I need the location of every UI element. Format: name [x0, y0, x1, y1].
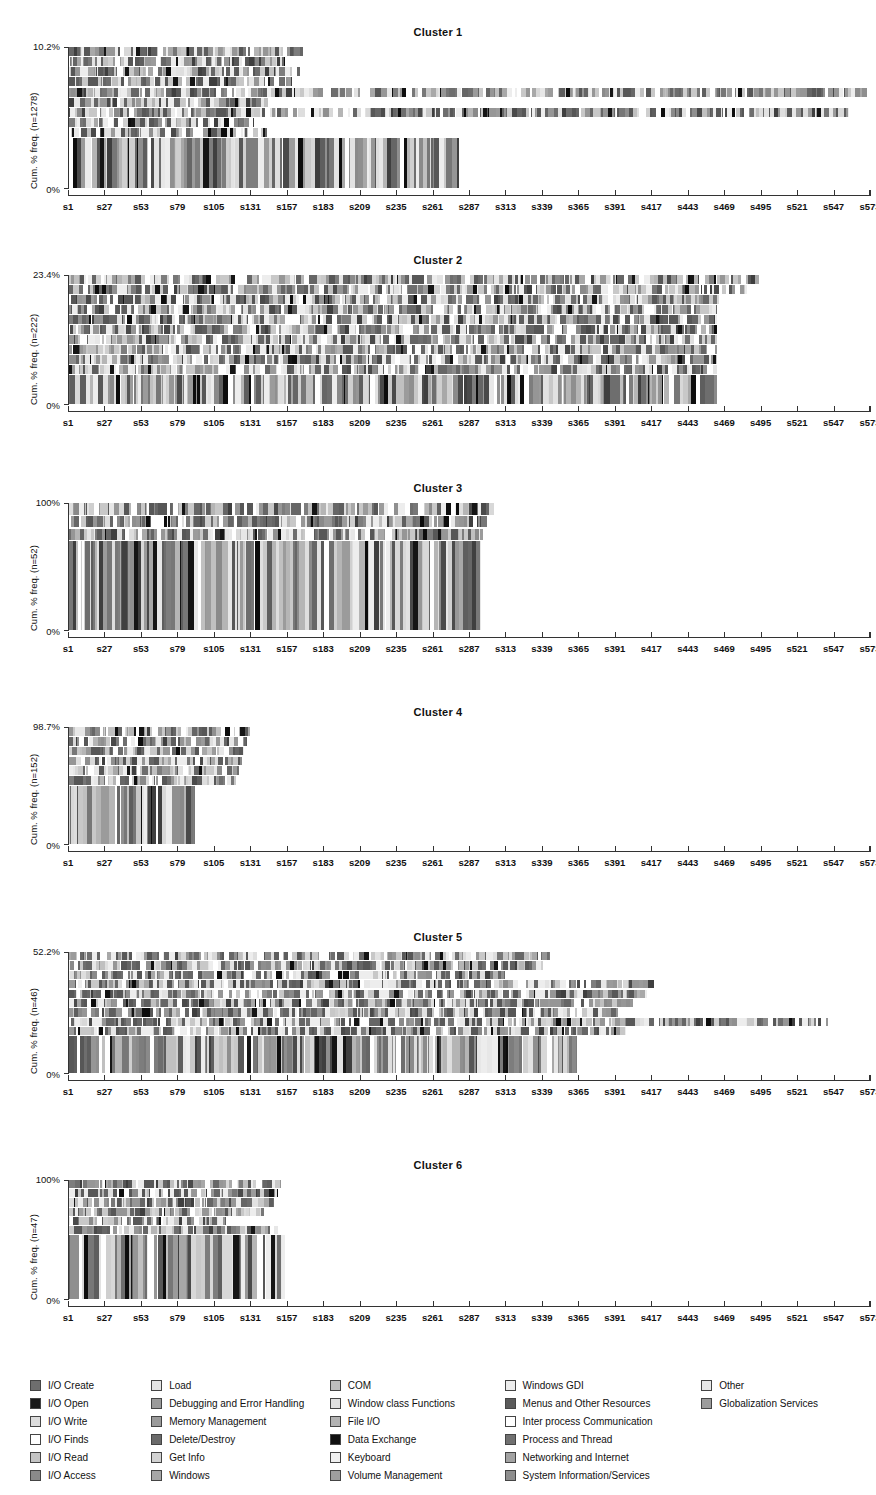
- x-axis-tick-label: s495: [750, 1312, 771, 1323]
- sequence-bands: [69, 275, 870, 405]
- legend-item[interactable]: Menus and Other Resources: [505, 1394, 702, 1412]
- legend-item[interactable]: Delete/Destroy: [151, 1430, 330, 1448]
- x-axis-tick-label: s391: [604, 1086, 625, 1097]
- legend-item[interactable]: Globalization Services: [701, 1394, 860, 1412]
- x-axis-tick: [287, 632, 288, 638]
- x-axis-tick-label: s235: [386, 417, 407, 428]
- legend-item-label: Data Exchange: [348, 1434, 416, 1445]
- legend-item-label: Load: [169, 1380, 191, 1391]
- x-axis-tick: [396, 846, 397, 852]
- legend-swatch-icon: [505, 1380, 516, 1391]
- x-axis-tick-label: s27: [97, 1086, 113, 1097]
- x-axis-tick: [177, 632, 178, 638]
- x-axis-tick-label: s105: [203, 201, 224, 212]
- x-axis-tick-label: s547: [823, 857, 844, 868]
- legend-item[interactable]: COM: [330, 1376, 505, 1394]
- sequence-segment: [265, 128, 267, 137]
- legend-item-label: I/O Access: [48, 1470, 96, 1481]
- x-axis-tick: [724, 1075, 725, 1081]
- x-axis-tick: [433, 632, 434, 638]
- x-axis-tick-label: s27: [97, 201, 113, 212]
- sequence-segment: [273, 1198, 274, 1206]
- legend-item[interactable]: I/O Access: [30, 1466, 151, 1484]
- x-axis-tick-label: s53: [133, 643, 149, 654]
- legend-column: Windows GDIMenus and Other ResourcesInte…: [505, 1376, 702, 1484]
- x-axis-tick: [797, 632, 798, 638]
- x-axis-tick: [141, 1301, 142, 1307]
- x-axis-tick-label: s1: [63, 201, 74, 212]
- x-axis-tick-label: s339: [531, 417, 552, 428]
- legend-item[interactable]: Debugging and Error Handling: [151, 1394, 330, 1412]
- legend-swatch-icon: [330, 1434, 341, 1445]
- x-axis-tick: [834, 190, 835, 196]
- legend-item[interactable]: File I/O: [330, 1412, 505, 1430]
- legend-item[interactable]: Inter process Communication: [505, 1412, 702, 1430]
- x-axis-tick-label: s495: [750, 857, 771, 868]
- x-axis-tick: [505, 1301, 506, 1307]
- x-axis-tick: [250, 190, 251, 196]
- sequence-segment: [237, 766, 239, 775]
- x-axis-tick-label: s209: [349, 417, 370, 428]
- legend-item[interactable]: Load: [151, 1376, 330, 1394]
- x-axis-tick: [797, 846, 798, 852]
- x-axis-tick: [834, 632, 835, 638]
- sequence-bands: [69, 47, 870, 189]
- legend-item[interactable]: I/O Create: [30, 1376, 151, 1394]
- panel-title: Cluster 5: [0, 930, 876, 944]
- legend-item[interactable]: I/O Write: [30, 1412, 151, 1430]
- sequence-segment: [576, 1036, 577, 1072]
- sequence-segment: [280, 1180, 281, 1188]
- legend-item-label: Inter process Communication: [523, 1416, 653, 1427]
- legend-item[interactable]: Other: [701, 1376, 860, 1394]
- x-axis-tick-label: s183: [313, 1086, 334, 1097]
- x-axis-tick-label: s105: [203, 417, 224, 428]
- legend-item[interactable]: Windows: [151, 1466, 330, 1484]
- legend-item-label: Windows GDI: [523, 1380, 584, 1391]
- legend-item[interactable]: I/O Read: [30, 1448, 151, 1466]
- x-axis-tick-label: s131: [240, 417, 261, 428]
- x-axis-tick: [761, 406, 762, 412]
- legend-item[interactable]: Windows GDI: [505, 1376, 702, 1394]
- x-axis-tick-label: s313: [495, 643, 516, 654]
- legend-item[interactable]: Memory Management: [151, 1412, 330, 1430]
- x-axis-tick-label: s287: [458, 417, 479, 428]
- legend-item[interactable]: System Information/Services: [505, 1466, 702, 1484]
- sequence-band: [69, 961, 544, 969]
- legend-item[interactable]: I/O Open: [30, 1394, 151, 1412]
- legend-item[interactable]: Data Exchange: [330, 1430, 505, 1448]
- legend-item[interactable]: Networking and Internet: [505, 1448, 702, 1466]
- legend-item-label: Volume Management: [348, 1470, 443, 1481]
- x-axis-tick: [688, 406, 689, 412]
- sequence-band: [69, 67, 302, 76]
- legend-item[interactable]: Get Info: [151, 1448, 330, 1466]
- sequence-band: [69, 1208, 264, 1216]
- x-axis-tick: [688, 1301, 689, 1307]
- x-axis-tick: [724, 190, 725, 196]
- legend-item[interactable]: Window class Functions: [330, 1394, 505, 1412]
- legend-item[interactable]: I/O Finds: [30, 1430, 151, 1448]
- x-axis-tick-label: s27: [97, 1312, 113, 1323]
- x-axis-tick-label: s313: [495, 417, 516, 428]
- x-axis-tick: [761, 846, 762, 852]
- legend-item[interactable]: Keyboard: [330, 1448, 505, 1466]
- x-axis-tick: [688, 190, 689, 196]
- x-axis-tick-label: s235: [386, 1312, 407, 1323]
- legend-swatch-icon: [330, 1380, 341, 1391]
- x-axis-tick: [578, 406, 579, 412]
- legend-item[interactable]: Process and Thread: [505, 1430, 702, 1448]
- legend-swatch-icon: [30, 1380, 41, 1391]
- legend-item[interactable]: Volume Management: [330, 1466, 505, 1484]
- x-axis-tick: [578, 190, 579, 196]
- legend-item-label: COM: [348, 1380, 371, 1391]
- x-axis-tick-label: s391: [604, 857, 625, 868]
- x-axis-tick-label: s287: [458, 643, 479, 654]
- legend-item-label: I/O Create: [48, 1380, 94, 1391]
- sequence-segment: [541, 961, 542, 969]
- x-axis-tick-label: s209: [349, 1312, 370, 1323]
- sequence-band: [69, 727, 251, 736]
- legend-swatch-icon: [505, 1452, 516, 1463]
- x-axis-tick: [834, 1075, 835, 1081]
- x-axis-tick-label: s573: [859, 417, 876, 428]
- x-axis-tick: [287, 406, 288, 412]
- legend-item-label: I/O Read: [48, 1452, 88, 1463]
